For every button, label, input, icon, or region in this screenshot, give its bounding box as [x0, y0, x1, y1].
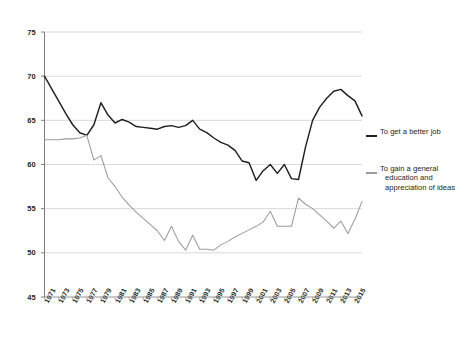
gridlines [45, 32, 363, 297]
series-line-1 [45, 135, 363, 250]
legend-swatch-0 [366, 135, 377, 137]
legend-swatch-1 [366, 172, 377, 174]
legend-label-0: To get a better job [380, 127, 464, 136]
series-lines [45, 76, 363, 250]
line-chart: 45505560657075 1971197319751977197919811… [0, 0, 464, 339]
axis-lines [41, 32, 355, 300]
legend-label-1: To gain a generaleducation andappreciati… [380, 164, 464, 192]
